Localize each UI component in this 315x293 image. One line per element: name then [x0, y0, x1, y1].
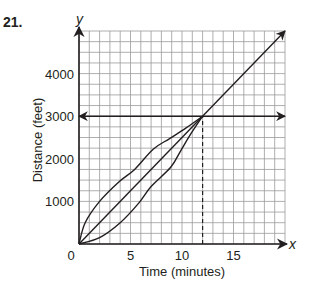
- distance-time-chart: 21. y x 051015 1000200030004000 Time (mi…: [0, 0, 315, 293]
- y-tick-labels: 1000200030004000: [45, 67, 74, 210]
- y-tick-label: 4000: [45, 67, 74, 82]
- x-tick-labels: 051015: [67, 248, 240, 263]
- y-tick-label: 3000: [45, 109, 74, 124]
- x-tick-label: 10: [175, 248, 189, 263]
- x-axis-title: Time (minutes): [139, 264, 225, 279]
- x-tick-label: 5: [127, 248, 134, 263]
- y-axis-title: Distance (feet): [30, 98, 45, 183]
- y-tick-label: 2000: [45, 152, 74, 167]
- problem-number: 21.: [3, 14, 22, 30]
- x-tick-label: 15: [226, 248, 240, 263]
- y-tick-label: 1000: [45, 194, 74, 209]
- x-tick-label: 0: [67, 248, 74, 263]
- x-axis-variable: x: [288, 236, 297, 252]
- y-axis-variable: y: [75, 11, 84, 27]
